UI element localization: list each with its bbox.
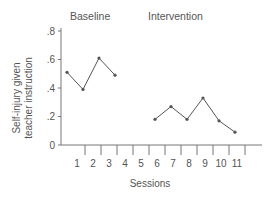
x-axis-ticks: 1234567891011 bbox=[74, 145, 245, 169]
data-point bbox=[185, 118, 188, 121]
x-tick-label: 1 bbox=[74, 158, 80, 169]
x-axis-title: Sessions bbox=[130, 178, 171, 189]
data-point bbox=[233, 131, 236, 134]
y-tick-label: 0 bbox=[49, 140, 55, 151]
y-axis-title: Self-injury given teacher instruction bbox=[11, 57, 34, 139]
data-point bbox=[65, 71, 68, 74]
data-series bbox=[65, 56, 236, 133]
x-tick-label: 6 bbox=[154, 158, 160, 169]
y-axis-ticks: 0.2.4.6.8 bbox=[47, 26, 61, 151]
data-point bbox=[81, 88, 84, 91]
data-point bbox=[217, 119, 220, 122]
x-tick-label: 11 bbox=[232, 158, 243, 169]
phase-label-intervention: Intervention bbox=[148, 10, 203, 22]
data-point bbox=[169, 105, 172, 108]
y-tick-label: .6 bbox=[47, 54, 56, 65]
x-tick-label: 4 bbox=[122, 158, 128, 169]
axes bbox=[61, 28, 262, 145]
y-axis-title-line-1: Self-injury given bbox=[11, 62, 22, 133]
y-tick-label: .8 bbox=[47, 26, 56, 37]
x-tick-label: 5 bbox=[138, 158, 144, 169]
y-tick-label: .2 bbox=[47, 111, 56, 122]
x-tick-label: 9 bbox=[202, 158, 208, 169]
x-tick-label: 7 bbox=[170, 158, 176, 169]
phase-label-baseline: Baseline bbox=[70, 10, 110, 22]
plot-area: 0.2.4.6.8 1234567891011 Baseline Interve… bbox=[0, 0, 270, 200]
x-tick-label: 2 bbox=[90, 158, 96, 169]
y-axis-title-line-2: teacher instruction bbox=[23, 57, 34, 139]
y-tick-label: .4 bbox=[47, 83, 56, 94]
x-tick-label: 10 bbox=[215, 158, 227, 169]
x-tick-label: 8 bbox=[186, 158, 192, 169]
data-point bbox=[97, 56, 100, 59]
single-case-line-chart: 0.2.4.6.8 1234567891011 Baseline Interve… bbox=[0, 0, 270, 200]
data-point bbox=[201, 96, 204, 99]
data-point bbox=[113, 74, 116, 77]
series-line-intervention bbox=[155, 98, 235, 132]
series-line-baseline bbox=[67, 58, 115, 89]
data-point bbox=[153, 118, 156, 121]
x-tick-label: 3 bbox=[106, 158, 112, 169]
